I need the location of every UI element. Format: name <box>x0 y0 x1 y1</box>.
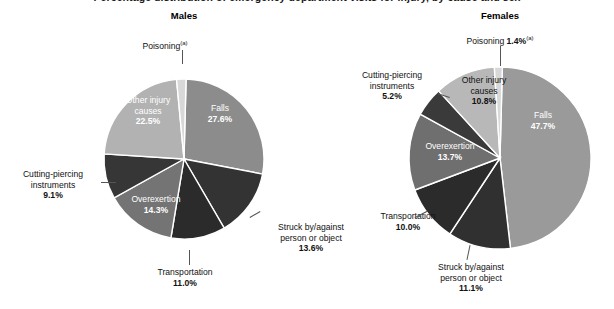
females-falls-line1: Falls <box>512 110 574 121</box>
females-poisoning-leader-line <box>500 46 501 66</box>
females-cutting-line2: instruments <box>345 81 439 92</box>
females-cutting-pct: 5.2% <box>345 91 439 102</box>
females-poisoning-text: Poisoning <box>466 36 504 46</box>
females-label-other-injury-causes: Other injury causes 10.8% <box>438 75 530 107</box>
females-poisoning-pct: 1.4% <box>507 36 527 46</box>
injury-cause-pie-figure: Percentage distribution of emergency dep… <box>0 0 614 309</box>
females-falls-pct: 47.7% <box>512 121 574 132</box>
females-other-injury-pct: 10.8% <box>438 96 530 107</box>
females-other-injury-line1: Other injury <box>438 75 530 86</box>
females-label-overexertion: Overexertion 13.7% <box>404 141 496 162</box>
females-transportation-pct: 10.0% <box>355 222 461 233</box>
females-other-injury-line2: causes <box>438 86 530 97</box>
females-poisoning-footnote: (a) <box>526 35 533 41</box>
females-label-struck-by: Struck by/against person or object 11.1% <box>415 262 527 294</box>
females-overexertion-pct: 13.7% <box>404 152 496 163</box>
females-transportation-line1: Transportation <box>355 211 461 222</box>
females-struck-line1: Struck by/against <box>415 262 527 273</box>
females-label-transportation: Transportation 10.0% <box>355 211 461 232</box>
females-cutting-line1: Cutting-piercing <box>345 70 439 81</box>
females-label-cutting-piercing: Cutting-piercing instruments 5.2% <box>345 70 439 102</box>
females-label-falls: Falls 47.7% <box>512 110 574 131</box>
females-label-poisoning: Poisoning 1.4%(a) <box>425 33 575 46</box>
females-struck-pct: 11.1% <box>415 283 527 294</box>
females-overexertion-line1: Overexertion <box>404 141 496 152</box>
females-struck-line2: person or object <box>415 273 527 284</box>
